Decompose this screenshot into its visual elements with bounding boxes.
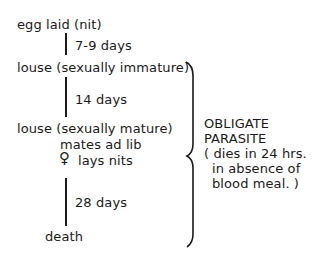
note-blood-meal: blood meal. ): [212, 176, 299, 191]
curly-brace-icon: [0, 0, 323, 254]
note-parasite: PARASITE: [204, 131, 266, 146]
note-dies: ( dies in 24 hrs.: [204, 146, 307, 161]
note-absence: in absence of: [212, 161, 300, 176]
note-obligate: OBLIGATE: [204, 116, 269, 131]
